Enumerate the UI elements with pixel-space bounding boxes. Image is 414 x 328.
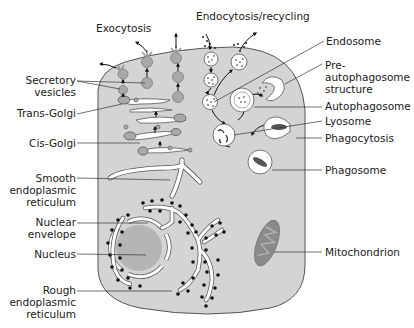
label-autophagosome: Autophagosome — [325, 100, 411, 112]
label-trans-golgi: Trans-Golgi — [17, 107, 76, 119]
label-smooth-er-line1: Smooth — [35, 172, 76, 184]
label-nuclear-envelope-line2: envelope — [28, 228, 76, 240]
label-secretory-vesicles-line2: vesicles — [34, 86, 76, 98]
label-phagosome: Phagosome — [325, 164, 386, 176]
label-nuclear-envelope-line1: Nuclear — [36, 216, 76, 228]
label-rough-er-line1: Rough — [43, 284, 76, 296]
label-pre-autophagosome-line2: autophagosome — [325, 71, 410, 83]
label-exocytosis: Exocytosis — [96, 22, 151, 34]
label-cis-golgi: Cis-Golgi — [29, 137, 76, 149]
label-endosome: Endosome — [326, 35, 381, 47]
label-smooth-er-line3: reticulum — [26, 196, 76, 208]
label-endocytosis-recycling: Endocytosis/recycling — [196, 10, 310, 22]
label-smooth-er-line2: endoplasmic — [9, 184, 76, 196]
label-pre-autophagosome-line3: structure — [325, 83, 373, 95]
label-pre-autophagosome-line1: Pre- — [325, 59, 345, 71]
label-lysosome: Lyosome — [325, 115, 371, 127]
label-secretory-vesicles-line1: Secretory — [25, 74, 76, 86]
lysosome — [213, 124, 235, 146]
label-rough-er-line3: reticulum — [26, 308, 76, 320]
label-nucleus: Nucleus — [34, 248, 76, 260]
label-rough-er-line2: endoplasmic — [9, 296, 76, 308]
label-phagocytosis: Phagocytosis — [325, 132, 394, 144]
label-mitochondrion: Mitochondrion — [325, 246, 400, 258]
